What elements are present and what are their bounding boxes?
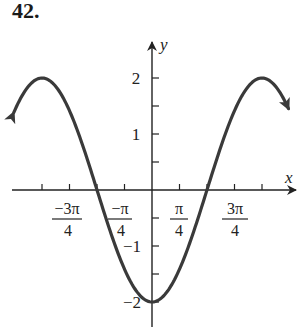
svg-text:−3π: −3π	[54, 200, 79, 217]
x-tick-label-pi-4: π 4	[170, 200, 188, 239]
svg-text:4: 4	[231, 222, 239, 239]
y-tick-label-1: 1	[132, 125, 141, 144]
x-tick-label-3pi-4: 3π 4	[222, 200, 248, 239]
y-axis-label: y	[158, 35, 168, 54]
x-axis-label: x	[284, 168, 293, 187]
svg-text:π: π	[175, 200, 183, 217]
y-tick-label-2: 2	[132, 69, 141, 88]
graph: y x 2 1 −1 −2 −3π 4 −π 4 π 4 3π 4	[0, 0, 298, 327]
y-tick-label-neg1: −1	[123, 237, 141, 256]
svg-text:−π: −π	[111, 200, 128, 217]
svg-text:4: 4	[117, 222, 125, 239]
svg-text:4: 4	[64, 222, 72, 239]
y-tick-label-neg2: −2	[123, 293, 141, 312]
svg-text:3π: 3π	[227, 200, 243, 217]
svg-text:4: 4	[175, 222, 183, 239]
x-tick-label-neg-3pi-4: −3π 4	[52, 200, 82, 239]
